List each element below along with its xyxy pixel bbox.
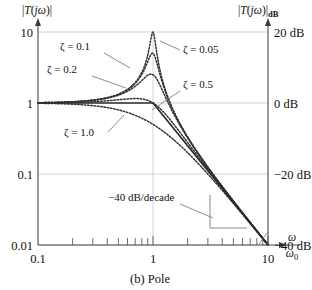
slope-annotation-label: −40 dB/decade [108, 191, 174, 203]
curve-label-0-5: ζ = 0.5 [183, 78, 214, 91]
x-tick-label: 10 [262, 252, 275, 266]
curve-label-0-05: ζ = 0.05 [183, 43, 219, 56]
y-tick-label-left: 1 [27, 97, 33, 111]
leader-line [92, 76, 126, 88]
x-axis-title-numerator: ω [288, 231, 296, 243]
curve-label-0-2: ζ = 0.2 [47, 63, 77, 76]
x-tick-label: 0.1 [30, 252, 46, 266]
y-tick-label-right: 20 dB [274, 26, 304, 40]
minor-tick-marks [73, 236, 268, 245]
left-axis-arrow [35, 18, 41, 26]
right-axis-title: |T(jω)|dB [238, 4, 279, 19]
slope-annotation-leader [180, 204, 213, 218]
y-tick-label-left: 10 [21, 26, 34, 40]
figure-caption: (b) Pole [130, 272, 170, 286]
bode-magnitude-figure: 1010.10.0120 dB0 dB−20 dB−40 dB0.1110|T(… [0, 0, 312, 290]
plot-canvas: 1010.10.0120 dB0 dB−20 dB−40 dB0.1110|T(… [0, 0, 312, 290]
y-tick-label-left: 0.1 [17, 168, 33, 182]
y-tick-label-right: 0 dB [274, 97, 298, 111]
curve-label-0-1: ζ = 0.1 [60, 40, 90, 53]
leader-line [104, 53, 130, 68]
left-axis-title: |T(jω)| [22, 4, 52, 17]
leader-line [160, 41, 180, 50]
leader-line [108, 115, 124, 132]
x-tick-label: 1 [150, 252, 156, 266]
right-axis-arrow [265, 18, 271, 26]
curve-label-1: ζ = 1.0 [64, 126, 95, 139]
y-tick-label-right: −20 dB [274, 168, 311, 182]
y-tick-label-left: 0.01 [11, 239, 33, 253]
